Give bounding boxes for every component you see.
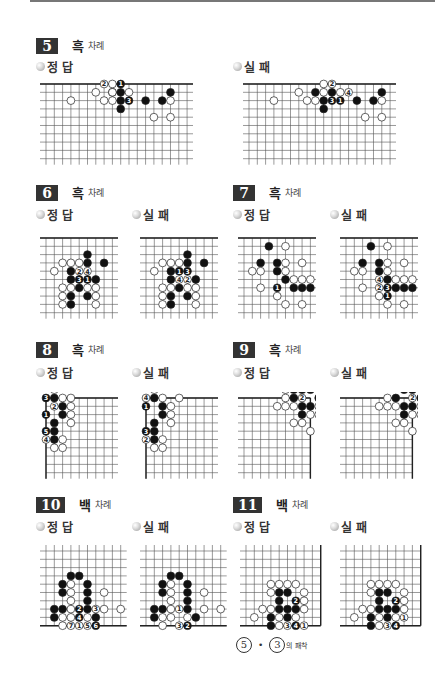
black-stone (84, 259, 92, 267)
black-stone (282, 276, 290, 284)
correct-answer-heading: 정 답 (36, 206, 73, 223)
black-stone (375, 267, 383, 275)
bullet-icon (36, 210, 45, 219)
white-stone (150, 267, 158, 275)
turn-label: 차례 (292, 498, 308, 511)
svg-text:2: 2 (410, 394, 415, 402)
white-stone (384, 580, 392, 588)
black-stone (159, 402, 167, 410)
heading-text: 실 패 (341, 518, 367, 535)
svg-text:1: 1 (77, 622, 82, 630)
white-stone (59, 613, 67, 621)
white-stone (359, 605, 367, 613)
black-stone (408, 284, 416, 292)
black-stone (67, 300, 75, 308)
failure-heading: 실 패 (132, 518, 169, 535)
correct-answer-heading: 정 답 (36, 58, 73, 75)
black-stone (84, 292, 92, 300)
black-stone (184, 597, 192, 605)
go-board-diagram: 2431 (40, 232, 118, 319)
white-stone (67, 580, 75, 588)
white-stone (257, 267, 265, 275)
black-stone (67, 572, 75, 580)
black-stone (167, 292, 175, 300)
bullet-icon (132, 210, 141, 219)
heading-text: 정 답 (244, 364, 270, 381)
black-stone (59, 580, 67, 588)
black-stone (92, 613, 100, 621)
white-stone (290, 276, 298, 284)
white-stone (375, 613, 383, 621)
white-stone (359, 284, 367, 292)
black-stone (367, 613, 375, 621)
problem-header: 8흑차례 (36, 340, 104, 359)
white-stone (300, 589, 308, 597)
black-stone: 1 (84, 276, 92, 284)
white-stone (306, 276, 314, 284)
black-stone (284, 589, 292, 597)
black-stone (150, 613, 158, 621)
black-stone: 1 (175, 267, 183, 275)
go-board-diagram: 4132 (140, 392, 218, 479)
black-stone (167, 88, 175, 96)
black-stone (384, 613, 392, 621)
go-board-diagram: 132 (140, 545, 227, 632)
black-stone (290, 394, 298, 402)
white-stone (75, 259, 83, 267)
black-stone (175, 572, 183, 580)
white-stone (359, 267, 367, 275)
black-stone (150, 436, 158, 444)
black-stone (275, 589, 283, 597)
black-stone (167, 276, 175, 284)
white-stone (92, 88, 100, 96)
white-stone: 2 (50, 402, 58, 410)
svg-text:3: 3 (77, 276, 82, 284)
player-to-move: 백 (276, 495, 288, 514)
bullet-icon (233, 368, 242, 377)
white-stone: 2 (298, 394, 306, 402)
black-stone (192, 276, 200, 284)
black-stone (378, 88, 386, 96)
white-stone (282, 259, 290, 267)
svg-text:1: 1 (302, 622, 307, 630)
black-stone (75, 284, 83, 292)
black-stone (50, 427, 58, 435)
svg-text:2: 2 (77, 268, 82, 276)
svg-text:1: 1 (177, 268, 182, 276)
white-stone (298, 259, 306, 267)
white-stone (361, 113, 369, 121)
problem-number: 5 (36, 38, 58, 54)
white-stone (59, 394, 67, 402)
white-stone (292, 613, 300, 621)
white-stone (50, 267, 58, 275)
black-stone: 4 (392, 622, 400, 630)
black-stone (150, 605, 158, 613)
svg-text:7: 7 (69, 622, 74, 630)
white-stone (192, 300, 200, 308)
white-stone (167, 589, 175, 597)
svg-text:1: 1 (385, 292, 390, 300)
white-stone: 3 (284, 622, 292, 630)
black-stone (175, 284, 183, 292)
player-to-move: 흑 (269, 340, 281, 359)
white-stone (167, 113, 175, 121)
black-stone: 6 (92, 622, 100, 630)
player-to-move: 흑 (269, 183, 281, 202)
white-stone (167, 284, 175, 292)
svg-text:2: 2 (185, 276, 190, 284)
white-stone (306, 411, 314, 419)
white-stone (159, 444, 167, 452)
black-stone (50, 419, 58, 427)
white-stone (350, 267, 358, 275)
black-stone (359, 259, 367, 267)
black-stone (159, 411, 167, 419)
white-stone (184, 613, 192, 621)
black-stone: 1 (306, 392, 314, 394)
footnote-text: 의 패착 (286, 640, 306, 650)
turn-label: 차례 (285, 186, 301, 199)
svg-text:3: 3 (44, 394, 49, 402)
black-stone: 3 (125, 97, 133, 105)
black-stone (200, 259, 208, 267)
black-stone: 1 (336, 97, 344, 105)
svg-text:4: 4 (377, 276, 382, 284)
